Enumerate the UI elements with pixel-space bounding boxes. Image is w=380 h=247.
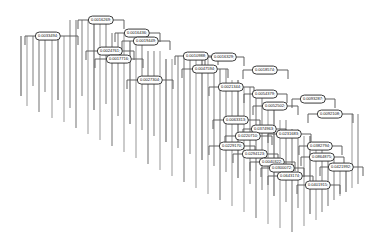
node-value-label: 0.0229170;: [219, 142, 245, 151]
dendrogram-figure: 0.0016269;0.0033494;0.0016436;0.0019449;…: [0, 0, 380, 247]
node-value-label: 0.0017716;: [106, 55, 132, 64]
node-value-label: 0.0092108;: [317, 110, 343, 119]
node-value-label: 0.0093287;: [300, 95, 326, 104]
node-value-label: 0.0021344;: [218, 83, 244, 92]
node-value-label: 0.0033494;: [35, 32, 61, 41]
node-value-label: 0.0018574;: [252, 66, 278, 75]
node-value-label: 0.0643174;: [277, 172, 303, 181]
node-value-label: 0.0864875;: [309, 153, 335, 162]
node-value-label: 0.0063313;: [223, 116, 249, 125]
node-value-label: 0.0027304;: [137, 76, 163, 85]
node-value-label: 0.0220710;: [235, 132, 261, 141]
node-value-label: 0.0016329;: [211, 53, 237, 62]
node-value-label: 0.0401915;: [305, 181, 331, 190]
node-value-label: 0.0421992;: [328, 163, 354, 172]
node-value-label: 0.0019449;: [133, 37, 159, 46]
node-value-label: 0.0016269;: [88, 16, 114, 25]
node-value-label: 0.0054379;: [252, 90, 278, 99]
node-value-label: 0.0052502;: [262, 102, 288, 111]
node-value-label: 0.0010988;: [183, 52, 209, 61]
node-value-label: 0.0047594;: [192, 65, 218, 74]
node-value-label: 0.0382794;: [307, 142, 333, 151]
node-value-label: 0.0231683;: [276, 130, 302, 139]
